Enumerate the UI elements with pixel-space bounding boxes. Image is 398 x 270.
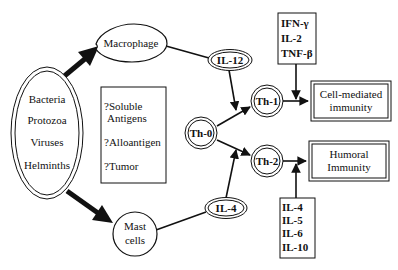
cytokine-ifn-gamma: IFN-γ: [281, 17, 309, 29]
thick-arrow-to-macrophage: [62, 46, 99, 78]
il4-label: IL-4: [216, 202, 237, 214]
macrophage-node: Macrophage: [96, 24, 167, 62]
pathogen-protozoa: Protozoa: [27, 114, 66, 126]
il4-node: IL-4: [205, 198, 247, 219]
cytokine-il10: IL-10: [282, 241, 309, 253]
pathogens-node: Bacteria Protozoa Viruses Helminths: [11, 67, 83, 199]
pathogen-viruses: Viruses: [31, 136, 64, 148]
th2-cytokines-box: IL-4 IL-5 IL-6 IL-10: [280, 198, 315, 258]
th1-cytokines-box: IFN-γ IL-2 TNF-β: [278, 13, 316, 64]
cell-mediated-line2: immunity: [330, 101, 373, 113]
th1-label: Th-1: [256, 95, 279, 107]
arrow-il12-to-th1-path: [229, 70, 236, 110]
arrow-il4-to-th2-path: [226, 150, 236, 198]
antigen-soluble-line1: ?Soluble: [104, 100, 143, 112]
th0-label: Th-0: [190, 127, 213, 139]
connector-macrophage-il12: [166, 46, 209, 58]
macrophage-label: Macrophage: [104, 37, 159, 49]
th2-node: Th-2: [251, 145, 283, 177]
arrow-th0-to-th1: [217, 107, 250, 126]
antigen-soluble-line2: Antigens: [107, 112, 147, 124]
th1-node: Th-1: [251, 85, 283, 117]
humoral-line1: Humoral: [329, 148, 368, 160]
thick-arrow-to-mast-cells: [67, 191, 113, 223]
arrow-th0-to-th2: [217, 140, 250, 155]
pathogen-bacteria: Bacteria: [29, 93, 66, 105]
connector-mast-il4: [156, 212, 206, 230]
mast-cells-node: Mast cells: [113, 212, 157, 256]
humoral-immunity-box: Humoral Immunity: [309, 141, 389, 181]
cytokine-tnf-beta: TNF-β: [281, 47, 313, 59]
mast-cells-line2: cells: [125, 234, 145, 246]
immune-response-diagram: Bacteria Protozoa Viruses Helminths ?Sol…: [0, 0, 398, 270]
cytokine-il6: IL-6: [282, 227, 303, 239]
mast-cells-line1: Mast: [124, 220, 146, 232]
th2-label: Th-2: [256, 155, 279, 167]
antigens-box: ?Soluble Antigens ?Alloantigen ?Tumor: [101, 87, 166, 183]
humoral-line2: Immunity: [327, 161, 371, 173]
cell-mediated-line1: Cell-mediated: [320, 88, 383, 100]
cell-mediated-immunity-box: Cell-mediated immunity: [311, 81, 391, 121]
cytokine-il2: IL-2: [281, 32, 302, 44]
pathogen-helminths: Helminths: [24, 159, 70, 171]
cytokine-il5: IL-5: [282, 214, 303, 226]
cytokine-il4: IL-4: [282, 201, 303, 213]
antigen-alloantigen: ?Alloantigen: [104, 136, 161, 148]
il12-label: IL-12: [217, 54, 244, 66]
il12-node: IL-12: [208, 50, 252, 71]
antigen-tumor: ?Tumor: [104, 160, 139, 172]
th0-node: Th-0: [185, 117, 217, 149]
